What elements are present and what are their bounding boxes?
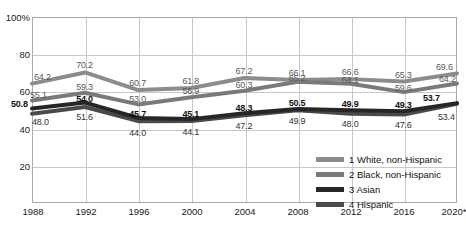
legend-item-hispanic[interactable]: 4 Hispanic	[316, 197, 442, 212]
data-label: 59.3	[76, 83, 93, 92]
legend-label: 2 Black, non-Hispanic	[349, 169, 441, 180]
data-label: 53.7	[423, 94, 440, 103]
legend: 1 White, non-Hispanic 2 Black, non-Hispa…	[316, 152, 442, 212]
data-label: 69.6	[436, 63, 453, 72]
x-tick-label: 2008	[287, 206, 308, 217]
legend-swatch-icon	[316, 202, 344, 207]
x-tick-label: 1988	[22, 206, 43, 217]
y-tick-label: 80	[0, 49, 30, 60]
data-label: 44.0	[129, 129, 146, 138]
data-label: 65.3	[395, 71, 412, 80]
y-tick-label: 100%	[0, 12, 30, 23]
data-label: 49.3	[395, 101, 412, 110]
data-label: 48.3	[236, 104, 253, 113]
data-label: 64.1	[342, 76, 359, 85]
legend-swatch-icon	[316, 157, 344, 162]
legend-item-white-non-hispanic[interactable]: 1 White, non-Hispanic	[316, 152, 442, 167]
data-label: 49.9	[342, 100, 359, 109]
legend-label: 1 White, non-Hispanic	[349, 154, 442, 165]
x-tick-label: 1992	[75, 206, 96, 217]
legend-item-black-non-hispanic[interactable]: 2 Black, non-Hispanic	[316, 167, 442, 182]
x-tick-label: 1996	[128, 206, 149, 217]
y-tick-label: 60	[0, 86, 30, 97]
data-label: 56.9	[182, 87, 199, 96]
legend-swatch-icon	[316, 187, 344, 192]
data-label: 55.1	[30, 91, 47, 100]
data-label: 65.2	[289, 74, 306, 83]
data-label: 70.2	[76, 61, 93, 70]
data-label: 54.0	[76, 95, 93, 104]
data-label: 59.6	[395, 84, 412, 93]
data-label: 50.8	[11, 100, 28, 109]
data-label: 60.3	[236, 81, 253, 90]
legend-item-asian[interactable]: 3 Asian	[316, 182, 442, 197]
data-label: 44.1	[182, 128, 199, 137]
data-label: 48.0	[342, 120, 359, 129]
data-label: 45.1	[182, 110, 199, 119]
data-label: 50.5	[289, 99, 306, 108]
data-label: 51.6	[76, 113, 93, 122]
x-tick-label: 2000	[181, 206, 202, 217]
x-tick-label: 2004	[234, 206, 255, 217]
data-label: 67.2	[236, 67, 253, 76]
y-tick-label: 40	[0, 124, 30, 135]
data-label: 47.6	[395, 121, 412, 130]
data-label: 45.7	[129, 110, 146, 119]
data-label: 64.2	[34, 73, 51, 82]
data-label: 49.9	[289, 117, 306, 126]
data-label: 53.4	[438, 113, 455, 122]
legend-swatch-icon	[316, 172, 344, 177]
legend-label: 4 Hispanic	[349, 199, 393, 210]
legend-label: 3 Asian	[349, 184, 380, 195]
data-label: 47.2	[236, 122, 253, 131]
data-label: 60.7	[129, 79, 146, 88]
data-label: 53.0	[129, 95, 146, 104]
data-label: 64.2	[439, 75, 456, 84]
x-tick-label: 2020*	[442, 206, 466, 217]
data-label: 61.8	[182, 77, 199, 86]
data-label: 48.0	[32, 118, 49, 127]
y-tick-label: 20	[0, 161, 30, 172]
